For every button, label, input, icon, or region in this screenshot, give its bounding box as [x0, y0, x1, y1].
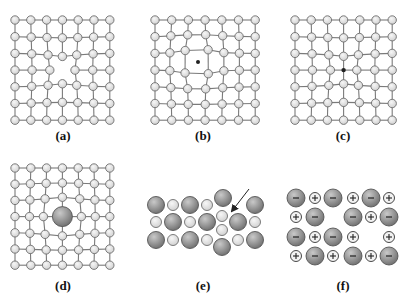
host-atom	[201, 85, 209, 93]
host-atom	[90, 164, 98, 172]
panel-label-d: (d)	[55, 278, 71, 294]
host-atom	[251, 116, 259, 124]
host-atom	[234, 116, 242, 124]
host-atom	[151, 49, 159, 57]
host-atom	[291, 66, 299, 74]
host-atom	[58, 80, 66, 88]
host-atom	[167, 32, 175, 40]
host-atom	[167, 100, 175, 108]
host-atom	[27, 82, 35, 90]
anion	[287, 228, 305, 246]
host-atom	[106, 245, 114, 253]
host-atom	[43, 33, 51, 41]
host-atom	[39, 212, 47, 220]
anion	[324, 228, 342, 246]
host-atom	[371, 50, 379, 58]
host-atom	[251, 33, 259, 41]
small-ion	[217, 225, 228, 236]
host-atom	[371, 99, 379, 107]
host-atom	[166, 49, 174, 57]
host-atom	[11, 245, 19, 253]
host-atom	[371, 82, 379, 90]
host-atom	[11, 83, 19, 91]
host-atom	[58, 232, 66, 240]
host-atom	[291, 99, 299, 107]
host-atom	[42, 16, 50, 24]
host-atom	[74, 33, 82, 41]
host-atom	[106, 229, 114, 237]
cation	[348, 232, 359, 243]
host-atom	[291, 116, 299, 124]
host-atom	[324, 98, 332, 106]
host-atom	[168, 116, 176, 124]
anion	[380, 247, 398, 265]
panel-d-large-substitutional	[11, 164, 114, 270]
host-atom	[151, 16, 159, 24]
host-atom	[106, 212, 114, 220]
host-atom	[11, 33, 19, 41]
host-atom	[90, 180, 98, 188]
host-atom	[27, 261, 35, 269]
host-atom	[388, 83, 396, 91]
cation	[384, 193, 395, 204]
host-atom	[235, 100, 243, 108]
host-atom	[58, 261, 66, 269]
host-atom	[11, 212, 19, 220]
host-atom	[372, 116, 380, 124]
host-atom	[307, 33, 315, 41]
large-ion	[214, 239, 231, 256]
host-atom	[307, 16, 315, 24]
host-atom	[27, 33, 35, 41]
host-atom	[42, 164, 50, 172]
small-ion	[202, 235, 213, 246]
host-atom	[74, 179, 82, 187]
host-atom	[43, 98, 51, 106]
host-atom	[90, 16, 98, 24]
cation	[310, 232, 321, 243]
host-atom	[42, 179, 50, 187]
large-ion	[148, 232, 165, 249]
host-atom	[106, 261, 114, 269]
host-atom	[106, 116, 114, 124]
host-atom	[184, 116, 192, 124]
small-ion	[168, 235, 179, 246]
anion	[324, 189, 342, 207]
host-atom	[28, 66, 36, 74]
host-atom	[27, 99, 35, 107]
host-atom	[58, 116, 66, 124]
host-atom	[325, 81, 333, 89]
large-ion	[199, 214, 216, 231]
arrow-icon	[232, 189, 249, 211]
host-atom	[181, 69, 189, 77]
host-atom	[26, 196, 34, 204]
host-atom	[42, 246, 50, 254]
host-atom	[308, 50, 316, 58]
host-atom	[388, 49, 396, 57]
host-atom	[26, 245, 34, 253]
host-atom	[220, 48, 228, 56]
host-atom	[323, 116, 331, 124]
cation	[291, 212, 302, 223]
host-atom	[58, 98, 66, 106]
host-atom	[291, 16, 299, 24]
host-atom	[27, 16, 35, 24]
large-ion	[247, 232, 264, 249]
host-atom	[11, 229, 19, 237]
host-atom	[201, 100, 209, 108]
small-ion	[202, 200, 213, 211]
interstitial-atom	[196, 60, 200, 64]
host-atom	[183, 31, 191, 39]
host-atom	[307, 99, 315, 107]
host-atom	[11, 16, 19, 24]
host-atom	[25, 212, 33, 220]
host-atom	[26, 229, 34, 237]
large-ion	[182, 197, 199, 214]
host-atom	[27, 164, 35, 172]
crystal-defects-figure	[0, 0, 413, 306]
host-atom	[106, 33, 114, 41]
host-atom	[251, 99, 259, 107]
host-atom	[74, 261, 82, 269]
host-atom	[325, 51, 333, 59]
host-atom	[73, 81, 81, 89]
host-atom	[354, 81, 362, 89]
